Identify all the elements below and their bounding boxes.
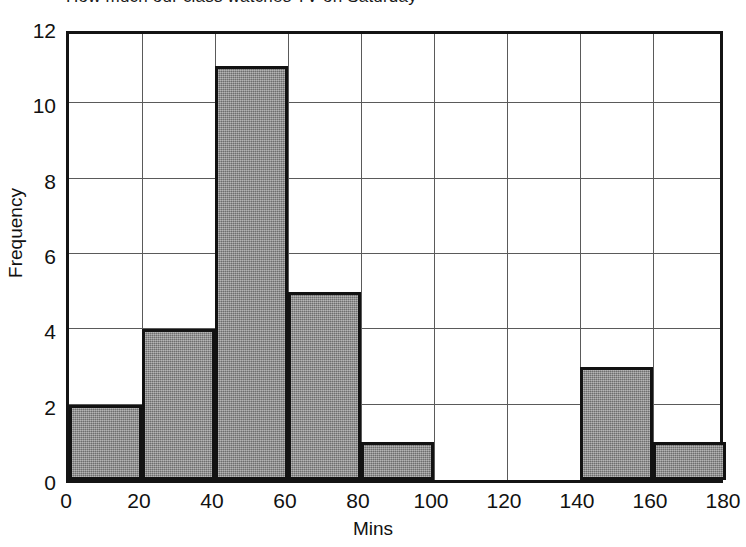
- x-tick-label: 120: [469, 490, 539, 512]
- x-tick-label: 180: [688, 490, 746, 512]
- x-tick-label: 0: [31, 490, 101, 512]
- x-tick-label: 140: [542, 490, 612, 512]
- histogram-bar: [361, 442, 434, 480]
- histogram-bar: [215, 66, 288, 480]
- x-tick-label: 100: [396, 490, 466, 512]
- chart-title: How much our class watches TV on Saturda…: [66, 0, 706, 7]
- plot-inner: [69, 34, 720, 480]
- gridline-vertical: [653, 34, 654, 480]
- y-tick-label: 4: [8, 321, 56, 342]
- gridline-vertical: [434, 34, 435, 480]
- x-tick-label: 80: [323, 490, 393, 512]
- y-tick-label: 12: [8, 20, 56, 41]
- histogram-bar: [580, 367, 653, 480]
- histogram-bar: [288, 292, 361, 480]
- histogram-bar: [653, 442, 726, 480]
- x-tick-label: 160: [615, 490, 685, 512]
- gridline-vertical: [361, 34, 362, 480]
- gridline-vertical: [507, 34, 508, 480]
- x-tick-label: 40: [177, 490, 247, 512]
- gridline-horizontal: [69, 102, 720, 103]
- x-tick-label: 60: [250, 490, 320, 512]
- y-tick-label: 6: [8, 246, 56, 267]
- plot-area: [66, 31, 723, 483]
- x-axis-title: Mins: [0, 518, 746, 540]
- y-tick-label: 2: [8, 397, 56, 418]
- y-tick-label: 8: [8, 171, 56, 192]
- histogram-bar: [69, 405, 142, 480]
- gridline-horizontal: [69, 178, 720, 179]
- y-tick-label: 10: [8, 95, 56, 116]
- gridline-horizontal: [69, 253, 720, 254]
- histogram-bar: [142, 329, 215, 480]
- histogram-figure: How much our class watches TV on Saturda…: [0, 0, 746, 547]
- x-tick-label: 20: [104, 490, 174, 512]
